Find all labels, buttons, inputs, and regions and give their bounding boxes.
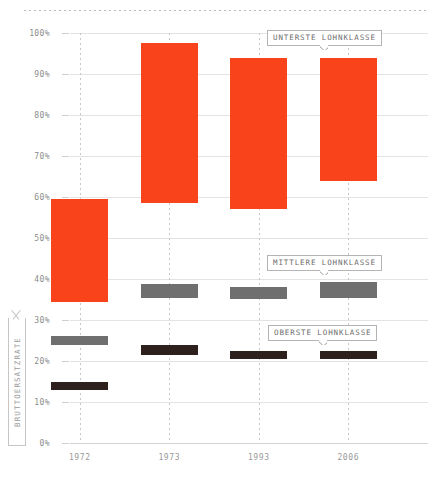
callout-highest-wage-class: OBERSTE LOHNKLASSE (268, 325, 377, 341)
top-dotted-rule (24, 10, 428, 11)
y-tick-mark (62, 197, 69, 198)
x-tick-label: 2006 (313, 453, 383, 462)
bar-lowest-1973[interactable] (141, 43, 198, 203)
y-gridline (70, 361, 428, 362)
y-tick-mark (62, 115, 69, 116)
y-tick-mark (62, 443, 69, 444)
bar-middle-1993[interactable] (230, 287, 287, 299)
bar-highest-1972[interactable] (51, 382, 108, 390)
y-gridline (70, 320, 428, 321)
y-tick-mark (62, 156, 69, 157)
y-tick-label: 70% (4, 152, 50, 161)
y-gridline (70, 238, 428, 239)
y-tick-mark (62, 361, 69, 362)
y-tick-label: 90% (4, 70, 50, 79)
y-tick-mark (62, 320, 69, 321)
callout-middle-wage-class: MITTLERE LOHNKLASSE (267, 255, 382, 271)
y-tick-label: 60% (4, 193, 50, 202)
bar-lowest-1972[interactable] (51, 199, 108, 302)
y-tick-label: 20% (4, 357, 50, 366)
bar-highest-1973[interactable] (141, 345, 198, 355)
bar-middle-1973[interactable] (141, 284, 198, 298)
bar-lowest-2006[interactable] (320, 58, 377, 181)
y-gridline (70, 402, 428, 403)
bar-highest-1993[interactable] (230, 351, 287, 359)
callout-tail-icon (320, 45, 328, 50)
chart-container: BRUTTOERSATZRATE 0%10%20%30%40%50%60%70%… (0, 0, 436, 486)
y-tick-mark (62, 33, 69, 34)
y-axis-title-label: BRUTTOERSATZRATE (13, 337, 22, 427)
x-tick-label: 1973 (134, 453, 204, 462)
bar-middle-2006[interactable] (320, 282, 377, 298)
bar-lowest-1993[interactable] (230, 58, 287, 210)
callout-tail-icon (320, 270, 328, 275)
y-tick-label: 40% (4, 275, 50, 284)
y-axis-title: BRUTTOERSATZRATE (8, 318, 26, 446)
callout-lowest-wage-class: UNTERSTE LOHNKLASSE (267, 30, 382, 46)
y-gridline (70, 443, 428, 444)
bar-middle-1972[interactable] (51, 336, 108, 344)
y-tick-label: 30% (4, 316, 50, 325)
y-tick-label: 100% (4, 29, 50, 38)
y-tick-mark (62, 74, 69, 75)
y-tick-label: 50% (4, 234, 50, 243)
y-gridline (70, 279, 428, 280)
plot-area: 0%10%20%30%40%50%60%70%80%90%100%1972197… (70, 33, 428, 443)
y-tick-label: 0% (4, 439, 50, 448)
callout-lowest-label: UNTERSTE LOHNKLASSE (273, 33, 376, 42)
y-tick-label: 10% (4, 398, 50, 407)
callout-tail-icon (319, 340, 327, 345)
callout-highest-label: OBERSTE LOHNKLASSE (274, 328, 371, 337)
y-tick-label: 80% (4, 111, 50, 120)
x-tick-label: 1993 (224, 453, 294, 462)
callout-middle-label: MITTLERE LOHNKLASSE (273, 258, 376, 267)
bar-highest-2006[interactable] (320, 351, 377, 359)
x-tick-label: 1972 (45, 453, 115, 462)
y-tick-mark (62, 402, 69, 403)
